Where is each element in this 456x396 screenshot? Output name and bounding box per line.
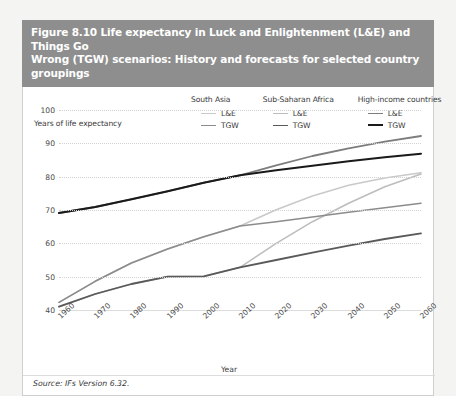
- x-axis-title: Year: [23, 365, 435, 374]
- figure-container: Figure 8.10 Life expectancy in Luck and …: [22, 20, 434, 376]
- series-line: [59, 173, 421, 303]
- series-line: [59, 203, 421, 302]
- y-gridline: [59, 210, 421, 211]
- figure-title-line-1: Figure 8.10 Life expectancy in Luck and …: [31, 26, 425, 53]
- series-line: [59, 174, 421, 307]
- y-gridline: [59, 243, 421, 244]
- y-axis-tick-label: 70: [45, 206, 55, 215]
- y-gridline: [59, 177, 421, 178]
- x-axis-tick-label: 2060: [418, 301, 438, 321]
- y-gridline: [59, 143, 421, 144]
- y-axis-tick-label: 100: [41, 106, 56, 115]
- series-line: [59, 233, 421, 306]
- legend-group-heading: Sub-Saharan Africa: [263, 95, 334, 104]
- legend-group-heading: South Asia: [191, 95, 230, 104]
- series-line: [59, 154, 421, 213]
- y-axis-tick-label: 60: [45, 239, 55, 248]
- y-gridline: [59, 110, 421, 111]
- plot-area: 4050607080901001960197019801990200020102…: [59, 110, 421, 310]
- y-axis-tick-label: 40: [45, 306, 55, 315]
- y-axis-tick-label: 80: [45, 172, 55, 181]
- figure-title-bar: Figure 8.10 Life expectancy in Luck and …: [22, 20, 434, 87]
- figure-title-line-2: Wrong (TGW) scenarios: History and forec…: [31, 53, 425, 80]
- y-axis-tick-label: 90: [45, 139, 55, 148]
- source-divider: [23, 375, 435, 376]
- source-note: Source: IFs Version 6.32.: [33, 379, 130, 388]
- y-gridline: [59, 277, 421, 278]
- y-axis-tick-label: 50: [45, 272, 55, 281]
- legend-group-heading: High-income countries: [358, 95, 442, 104]
- chart-panel: South AsiaL&ETGWSub-Saharan AfricaL&ETGW…: [22, 87, 434, 396]
